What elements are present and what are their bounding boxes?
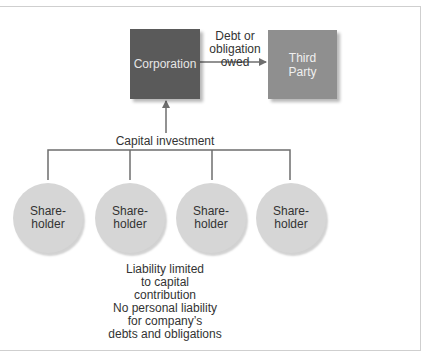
corporation-label: Corporation (134, 57, 197, 71)
capital-investment-label: Capital investment (95, 135, 235, 148)
limited-liability-note: Liability limited to capital contributio… (80, 263, 250, 302)
shareholder-circle: Share- holder (13, 183, 83, 253)
debt-label-line3: owed (205, 56, 265, 69)
shareholder-label-line2: holder (193, 218, 229, 231)
third-party-label-line2: Party (288, 65, 316, 79)
no-personal-liability-note: No personal liability for company’s debt… (70, 302, 260, 341)
shareholder-circle: Share- holder (256, 183, 326, 253)
shareholder-label-line2: holder (30, 218, 66, 231)
third-party-label-line1: Third (288, 51, 316, 65)
shareholder-bracket (48, 150, 290, 180)
shareholder-label-line2: holder (112, 218, 148, 231)
shareholder-circle: Share- holder (176, 183, 246, 253)
shareholder-label-line2: holder (273, 218, 309, 231)
personal-note-line3: debts and obligations (70, 328, 260, 341)
debt-label: Debt or obligation owed (205, 30, 265, 69)
corporation-box: Corporation (130, 29, 200, 99)
third-party-box: Third Party (268, 30, 337, 99)
shareholder-circle: Share- holder (95, 183, 165, 253)
